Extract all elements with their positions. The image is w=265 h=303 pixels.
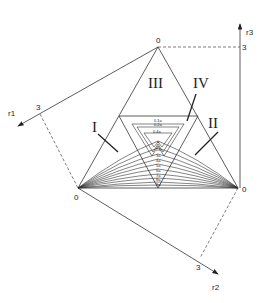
r2-label: r2 [212, 283, 220, 292]
axes [18, 24, 240, 274]
contour-label: 0.2a [154, 122, 163, 127]
vertex-top-label: 0 [156, 36, 161, 45]
contour-label: 0.4a [153, 129, 162, 134]
vertex-left-label: 0 [74, 193, 79, 202]
ternary-diagram: 0 0 0 r3 3 r1 3 r2 3 III IV I II 0.1a 0.… [0, 0, 265, 303]
region-I-label: I [92, 119, 97, 135]
contour-label: 9a [156, 182, 161, 187]
r3-label: r3 [246, 28, 254, 37]
region-IV-label: IV [193, 75, 209, 91]
contour-label: 2a [156, 147, 161, 152]
r3-tick-label: 3 [242, 43, 247, 52]
r2-axis [78, 188, 218, 274]
r2-tick-label: 3 [196, 263, 201, 272]
r1-axis [18, 47, 158, 126]
r1-tick-label: 3 [36, 103, 41, 112]
region-II-label: II [208, 115, 218, 131]
diagram-svg: 0 0 0 r3 3 r1 3 r2 3 III IV I II 0.1a 0.… [0, 0, 265, 303]
region-III-label: III [148, 75, 163, 91]
r1-label: r1 [8, 109, 16, 118]
vertex-right-label: 0 [242, 185, 247, 194]
